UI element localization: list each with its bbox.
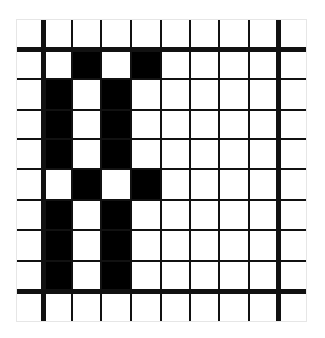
grid-outer-border (16, 19, 307, 322)
pixel-grid-diagram (0, 0, 325, 338)
